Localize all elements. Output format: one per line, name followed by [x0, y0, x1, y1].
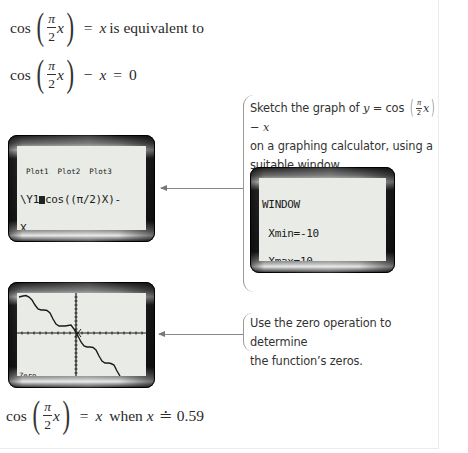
- fraction-numerator: π: [47, 59, 56, 76]
- equals-sign: =: [80, 407, 89, 425]
- plot-header: Plot1 Plot2 Plot3: [20, 168, 146, 176]
- rhs-variable: x: [95, 407, 102, 425]
- when-variable: x: [147, 407, 154, 425]
- minus-sign: −: [84, 66, 93, 84]
- equals-sign: =: [113, 66, 122, 84]
- fraction-denominator: 2: [48, 75, 55, 91]
- left-paren: (: [36, 54, 44, 92]
- left-paren: (: [32, 395, 40, 433]
- x-variable: x: [99, 66, 106, 84]
- left-paren: (: [36, 7, 44, 45]
- window-settings-content: WINDOW Xmin=-10 Xmax=10 Xscl=1 Ymin=-10 …: [259, 178, 386, 261]
- equation-rearranged: cos ( π 2 x ) − x = 0: [10, 57, 137, 92]
- calculator-window: WINDOW Xmin=-10 Xmax=10 Xscl=1 Ymin=-10 …: [250, 167, 395, 273]
- window-xmin: Xmin=-10: [262, 229, 386, 239]
- y1-continuation: X: [20, 224, 146, 230]
- argument-variable: x: [57, 66, 64, 84]
- approx-equals-sign: ≐: [159, 407, 172, 425]
- arrow-window-to-yeditor: [161, 188, 243, 189]
- zero-label-title: Zero: [19, 372, 88, 376]
- argument-variable: x: [53, 407, 60, 425]
- right-paren: ): [67, 7, 75, 45]
- calculator-screen: WINDOW Xmin=-10 Xmax=10 Xscl=1 Ymin=-10 …: [259, 178, 386, 261]
- fraction-denominator: 2: [48, 28, 55, 44]
- callout-sketch: Sketch the graph of y = cos (π2x) − x on…: [250, 99, 440, 175]
- callout-sketch-line2: on a graphing calculator, using a: [250, 137, 440, 156]
- fraction: π 2: [47, 12, 56, 44]
- when-text: when: [109, 407, 143, 425]
- fraction-numerator: π: [43, 400, 52, 417]
- calculator-y-editor: Plot1 Plot2 Plot3 \Y1cos((π/2)X)- X \Y2=…: [8, 135, 155, 242]
- equation-result: cos ( π 2 x ) = x when x ≐ 0.59: [6, 398, 204, 433]
- zero-value: 0: [129, 66, 137, 84]
- calculator-screen: Plot1 Plot2 Plot3 \Y1cos((π/2)X)- X \Y2=…: [17, 146, 146, 230]
- cos-function: cos: [10, 66, 31, 84]
- argument-variable: x: [57, 19, 64, 37]
- fraction-numerator: π: [47, 12, 56, 29]
- zero-value: 0.59: [177, 407, 204, 425]
- callout-sketch-line1: Sketch the graph of y = cos (π2x) − x: [250, 99, 440, 137]
- right-paren: ): [63, 395, 71, 433]
- fraction-denominator: 2: [44, 416, 51, 432]
- cos-function: cos: [10, 19, 31, 37]
- callout-zero-line2: the function’s zeros.: [250, 352, 440, 371]
- equals-sign: =: [84, 19, 93, 37]
- arrow-to-graph: [159, 334, 243, 335]
- equation-equivalent: cos ( π 2 x ) = x is equivalent to: [10, 10, 204, 45]
- calculator-graph: Zero X=.59461164 Y=0: [8, 282, 155, 388]
- y1-line: \Y1cos((π/2)X)-: [20, 195, 146, 205]
- window-title: WINDOW: [262, 200, 386, 210]
- zero-label: Zero X=.59461164 Y=0: [19, 357, 88, 376]
- right-paren: ): [67, 54, 75, 92]
- y-editor-content: Plot1 Plot2 Plot3 \Y1cos((π/2)X)- X \Y2=…: [17, 146, 146, 230]
- rhs-variable: x: [99, 19, 106, 37]
- callout-zero: Use the zero operation to determine the …: [250, 314, 440, 371]
- fraction: π 2: [47, 59, 56, 91]
- graph-screen: Zero X=.59461164 Y=0: [17, 293, 146, 376]
- equation-tail-text: is equivalent to: [109, 19, 204, 37]
- fraction: π 2: [43, 400, 52, 432]
- window-xmax: Xmax=10: [262, 257, 386, 261]
- callout-zero-line1: Use the zero operation to determine: [250, 314, 440, 352]
- cos-function: cos: [6, 407, 27, 425]
